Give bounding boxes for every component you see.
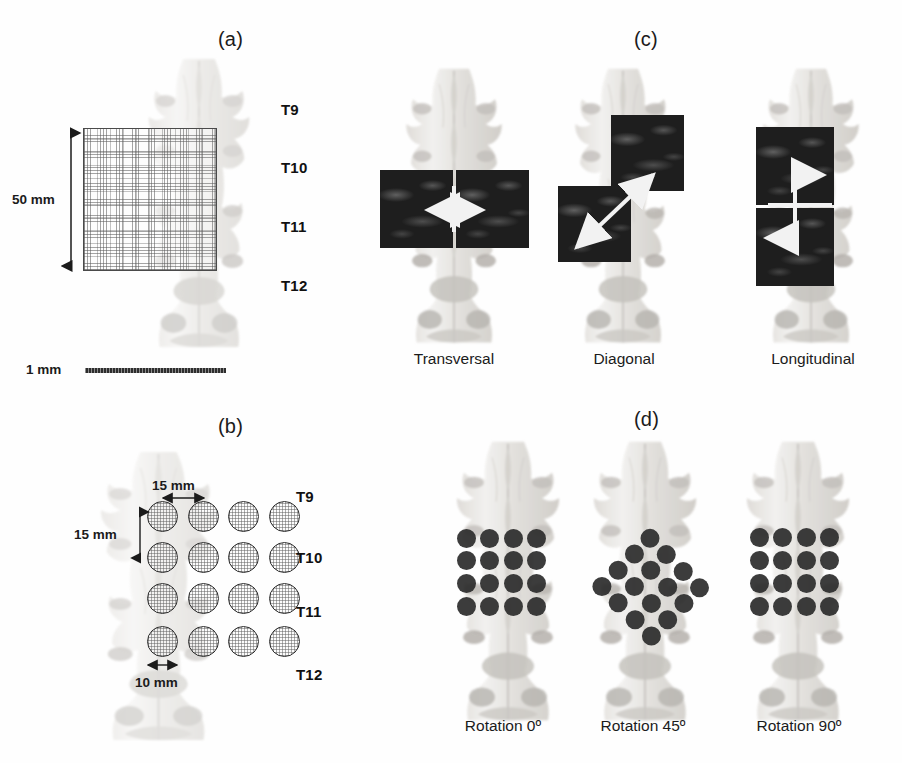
vertebra-label-t10: T10 [281,159,307,176]
core-circle [147,501,178,532]
roi-tile-transversal-right [456,170,529,248]
sample-dot [750,574,769,593]
sample-dot [820,551,839,570]
vertebra-label-t11: T11 [281,218,307,235]
sample-dot [773,597,792,616]
core-circle [147,583,178,614]
panel-c: (c) [370,0,902,400]
roi-tile-transversal-left [380,170,453,248]
panel-d: (d) [370,400,902,763]
sample-dot [820,528,839,547]
roi-tile-longitudinal-lower [756,208,834,286]
sample-dot [797,574,816,593]
panel-a-letter: (a) [218,28,243,51]
panel-b-letter: (b) [218,415,243,438]
panel-b-core-diameter-label: 10 mm [135,675,178,690]
panel-b: (b) [0,400,340,763]
core-circle [188,626,219,657]
caption-longitudinal: Longitudinal [733,350,893,368]
sample-dot [750,551,769,570]
core-circle [188,501,219,532]
vertebra-label-t12: T12 [296,666,322,683]
vertebra-label-t11: T11 [296,603,322,620]
core-circle [228,626,259,657]
core-circle [228,542,259,573]
sample-dot [797,551,816,570]
sample-dot [750,528,769,547]
vertebra-label-t9: T9 [296,488,314,505]
panel-a: (a) 50 mm T9 T10 [0,0,340,400]
core-circle [188,542,219,573]
roi-tile-diagonal-upper [611,115,684,191]
measurement-grid-square [83,128,217,271]
panel-a-height-label: 50 mm [12,192,55,207]
vertebra-label-t9: T9 [281,101,299,118]
sample-dot [820,597,839,616]
panel-c-letter: (c) [634,28,658,51]
panel-b-column-pitch-label: 15 mm [152,478,195,493]
sample-dot [797,528,816,547]
vertebra-label-t12: T12 [281,277,307,294]
core-circle [147,626,178,657]
vertebra-label-t10: T10 [296,549,322,566]
caption-rotation-90: Rotation 90º [729,717,869,735]
panel-b-row-pitch-label: 15 mm [74,527,117,542]
sample-dot [797,597,816,616]
sample-dot [773,528,792,547]
sample-dot-grid-rotation-90 [370,400,902,763]
scalebar [85,368,226,373]
sample-dot [820,574,839,593]
core-circle [269,626,300,657]
core-circle [228,501,259,532]
roi-tile-longitudinal-upper [756,127,834,205]
sample-dot [750,597,769,616]
caption-transversal: Transversal [384,350,524,368]
core-circle [269,501,300,532]
core-circle [147,542,178,573]
figure-canvas: (a) 50 mm T9 T10 [0,0,902,763]
core-circle [188,583,219,614]
caption-diagonal: Diagonal [561,350,687,368]
scalebar-label: 1 mm [26,362,61,377]
sample-dot [773,574,792,593]
sample-dot [773,551,792,570]
core-circle [228,583,259,614]
roi-tile-diagonal-lower [558,186,631,262]
